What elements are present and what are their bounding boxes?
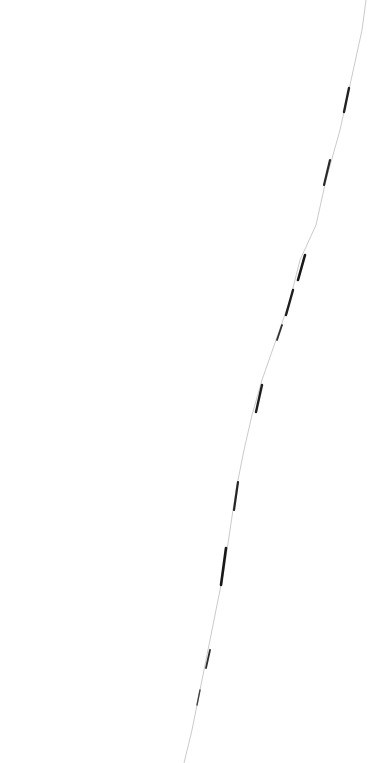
crack-segment <box>286 290 293 315</box>
crack-base-stroke <box>184 0 366 763</box>
crack-segment <box>197 690 200 705</box>
crack-segment <box>298 255 305 280</box>
crack-segment <box>221 548 226 585</box>
crack-segment <box>234 482 238 510</box>
crack-line-graphic <box>0 0 372 763</box>
white-canvas <box>0 0 372 763</box>
crack-segment <box>324 160 330 185</box>
crack-segment <box>344 88 349 112</box>
crack-segment <box>277 325 282 340</box>
